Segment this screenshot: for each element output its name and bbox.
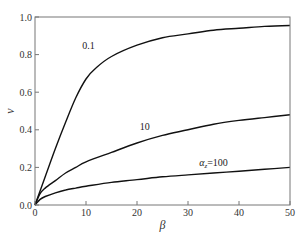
series-line-1 (35, 26, 290, 206)
y-tick-label: 0.4 (20, 124, 33, 135)
y-tick-label: 0.0 (20, 200, 33, 211)
y-axis-label: ν (3, 108, 17, 114)
y-tick-label: 1.0 (20, 12, 33, 23)
line-chart: 010203040500.00.20.40.60.81.0 0.110αz=10… (0, 0, 307, 234)
curves-layer (35, 26, 290, 206)
x-tick-label: 50 (285, 207, 295, 218)
series-label-3: αz=100 (199, 157, 228, 170)
x-tick-label: 10 (81, 207, 91, 218)
series-label-2: 10 (140, 121, 150, 132)
x-tick-label: 20 (132, 207, 142, 218)
x-tick-label: 40 (234, 207, 244, 218)
x-tick-label: 30 (183, 207, 193, 218)
x-axis-label: β (159, 218, 166, 232)
y-tick-label: 0.6 (20, 87, 33, 98)
ticks-layer: 010203040500.00.20.40.60.81.0 (20, 12, 296, 219)
x-tick-label: 0 (33, 207, 38, 218)
y-tick-label: 0.8 (20, 49, 33, 60)
y-tick-label: 0.2 (20, 162, 33, 173)
series-line-3 (35, 167, 290, 205)
labels-layer: 0.110αz=100 (82, 40, 228, 170)
series-line-2 (35, 115, 290, 205)
series-label-1: 0.1 (82, 40, 95, 51)
